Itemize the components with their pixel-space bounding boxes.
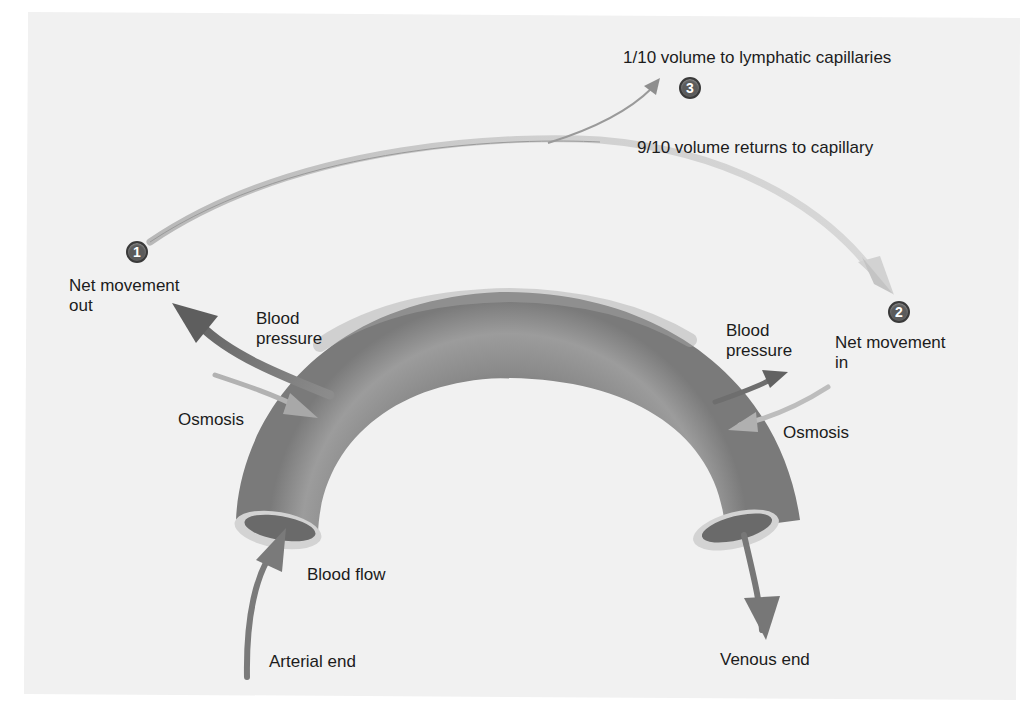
blood-flow-out-arrow [744,535,780,640]
net-movement-in-label: Net movement in [835,333,946,373]
return-volume-label: 9/10 volume returns to capillary [637,138,873,158]
venous-bp-line1: Blood [726,321,792,341]
arterial-osmosis-label: Osmosis [178,410,244,430]
step-2-badge: 2 [888,301,910,323]
arterial-blood-pressure-label: Blood pressure [256,309,322,349]
step-1-badge: 1 [126,241,148,263]
venous-blood-pressure-label: Blood pressure [726,321,792,361]
arterial-end-label: Arterial end [269,652,356,672]
return-flow-arrow [150,139,894,295]
lymphatic-label: 1/10 volume to lymphatic capillaries [623,48,891,68]
step-3-badge: 3 [679,77,701,99]
lymphatic-arrow [548,78,660,143]
venous-osmosis-label: Osmosis [783,423,849,443]
net-movement-out-label: Net movement out [69,276,180,316]
venous-bp-line2: pressure [726,341,792,361]
net-movement-in-line2: in [835,353,946,373]
net-movement-out-line1: Net movement [69,276,180,296]
arterial-bp-line2: pressure [256,329,322,349]
net-movement-in-line1: Net movement [835,333,946,353]
arterial-bp-line1: Blood [256,309,322,329]
venous-end-label: Venous end [720,650,810,670]
blood-flow-label: Blood flow [307,565,385,585]
net-movement-out-line2: out [69,296,180,316]
